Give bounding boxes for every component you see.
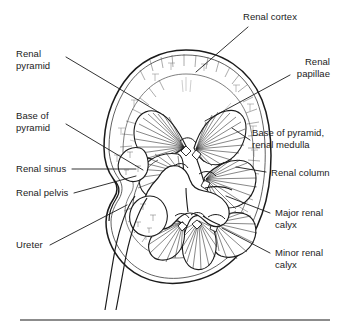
label-renal-sinus: Renal sinus — [16, 163, 66, 175]
label-renal-pelvis: Renal pelvis — [16, 187, 68, 199]
label-renal-pyramid: Renal pyramid — [16, 48, 50, 72]
label-renal-cortex: Renal cortex — [243, 11, 297, 23]
label-renal-column: Renal column — [271, 167, 330, 179]
label-base-of-pyramid: Base of pyramid — [16, 110, 50, 134]
kidney-figure: Renal pyramid Base of pyramid Renal sinu… — [0, 0, 342, 330]
label-renal-papillae: Renal papillae — [297, 56, 330, 80]
label-base-of-pyramid-renal-medulla: Base of pyramid, renal medulla — [252, 127, 324, 151]
kidney-body — [104, 50, 271, 310]
label-ureter: Ureter — [16, 239, 43, 251]
label-major-renal-calyx: Major renal calyx — [275, 207, 323, 231]
label-minor-renal-calyx: Minor renal calyx — [275, 247, 323, 271]
renal-pelvis-bulb — [130, 196, 168, 236]
